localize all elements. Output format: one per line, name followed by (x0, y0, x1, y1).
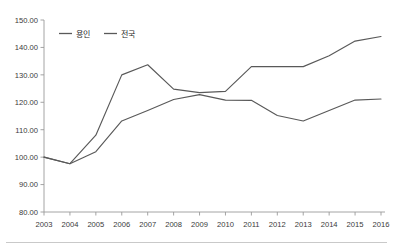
series-line-2 (44, 36, 381, 163)
series-line-1 (44, 95, 381, 164)
y-axis-tick-label: 100.00 (15, 153, 38, 162)
x-axis-tick-label: 2008 (165, 220, 182, 229)
y-axis-tick-label: 110.00 (15, 126, 38, 135)
x-axis-tick-label: 2005 (87, 220, 104, 229)
y-axis-tick-label: 80.00 (19, 208, 38, 217)
footer-divider (6, 242, 387, 243)
x-axis-tick-label: 2016 (373, 220, 390, 229)
x-axis-tick-label: 2003 (36, 220, 53, 229)
x-axis-tick-label: 2011 (243, 220, 259, 229)
x-axis-tick-label: 2004 (61, 220, 78, 229)
y-axis-tick-label: 140.00 (15, 43, 38, 52)
legend-label-2: 전국 (121, 29, 135, 39)
y-axis-tick-label: 120.00 (15, 98, 38, 107)
y-axis-tick-label: 90.00 (19, 180, 38, 189)
y-axis-tick-label: 150.00 (15, 16, 38, 25)
x-axis-tick-label: 2012 (269, 220, 286, 229)
y-axis-tick-label: 130.00 (15, 71, 38, 80)
legend-label-1: 용인 (76, 29, 90, 39)
x-axis-tick-label: 2006 (113, 220, 130, 229)
x-axis-tick-label: 2015 (347, 220, 364, 229)
x-axis-tick-label: 2009 (191, 220, 208, 229)
x-axis-tick-label: 2010 (217, 220, 234, 229)
x-axis-tick-label: 2013 (295, 220, 312, 229)
x-axis-tick-label: 2007 (139, 220, 156, 229)
chart-plot-area: 80.0090.00100.00110.00120.00130.00140.00… (0, 0, 393, 252)
x-axis-tick-label: 2014 (321, 220, 338, 229)
line-chart-figure: 80.0090.00100.00110.00120.00130.00140.00… (0, 0, 393, 252)
